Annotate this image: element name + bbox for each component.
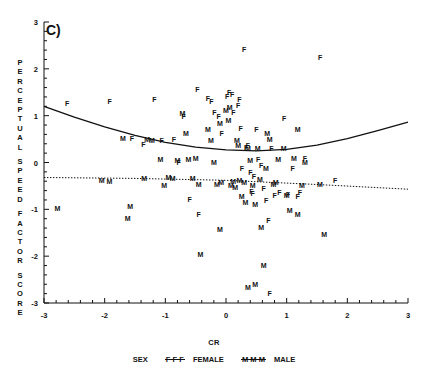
data-point-m: M (241, 179, 247, 186)
data-point-f: F (291, 165, 295, 172)
data-point-m: M (235, 141, 241, 148)
data-point-f: F (251, 190, 255, 197)
scatter-plot-figure: C) PERCEPTUALSPEEDFACTORSCORE FFFFFFFFFF… (0, 0, 428, 371)
legend-male-label: MALE (274, 355, 295, 364)
data-point-f: F (269, 145, 273, 152)
data-point-m: M (257, 175, 263, 182)
data-point-m: M (252, 281, 258, 288)
data-point-m: M (208, 137, 214, 144)
y-tick-label: -3 (22, 299, 38, 308)
data-point-f: F (195, 85, 199, 92)
y-tick-label: 3 (22, 18, 38, 27)
data-point-f: F (242, 46, 246, 53)
data-point-m: M (217, 119, 223, 126)
data-point-m: M (217, 226, 223, 233)
data-point-m: M (291, 154, 297, 161)
data-point-f: F (220, 130, 224, 137)
data-point-m: M (299, 181, 305, 188)
data-point-m: M (302, 158, 308, 165)
x-tick-label: 1 (277, 311, 297, 320)
data-point-m: M (252, 200, 258, 207)
data-point-m: M (183, 130, 189, 137)
data-point-m: M (227, 104, 233, 111)
y-tick-label: -1 (22, 205, 38, 214)
data-point-m: M (193, 154, 199, 161)
data-point-m: M (255, 145, 261, 152)
data-point-f: F (217, 112, 221, 119)
data-point-f: F (266, 216, 270, 223)
data-point-f: F (277, 188, 281, 195)
y-tick-label: 2 (22, 65, 38, 74)
data-point-m: M (267, 136, 273, 143)
data-point-m: M (218, 179, 224, 186)
x-axis-label: CR (0, 338, 428, 347)
data-point-f: F (261, 185, 265, 192)
y-tick-label: 1 (22, 112, 38, 121)
data-point-f: F (197, 211, 201, 218)
data-point-m: M (211, 158, 217, 165)
data-point-m: M (125, 214, 131, 221)
data-point-m: M (295, 125, 301, 132)
data-point-f: F (65, 99, 69, 106)
data-point-m: M (295, 211, 301, 218)
data-point-m: M (170, 174, 176, 181)
data-point-f: F (318, 54, 322, 61)
data-point-f: F (160, 136, 164, 143)
data-point-m: M (247, 157, 253, 164)
data-point-m: M (198, 250, 204, 257)
data-point-f: F (254, 125, 258, 132)
data-point-f: F (107, 97, 111, 104)
data-point-m: M (54, 205, 60, 212)
data-point-m: M (179, 110, 185, 117)
data-point-f: F (209, 97, 213, 104)
axes (44, 22, 408, 303)
data-point-m: M (242, 199, 248, 206)
data-point-m: M (250, 181, 256, 188)
data-point-f: F (172, 136, 176, 143)
data-point-m: M (99, 177, 105, 184)
data-point-m: M (190, 174, 196, 181)
data-point-m: M (317, 180, 323, 187)
x-tick-label: 3 (398, 311, 418, 320)
data-point-m: M (281, 145, 287, 152)
data-point-f: F (237, 95, 241, 102)
data-point-m: M (273, 179, 279, 186)
data-point-m: M (185, 155, 191, 162)
x-tick-label: -3 (34, 311, 54, 320)
data-point-m: M (120, 135, 126, 142)
data-point-m: M (149, 137, 155, 144)
legend-title: SEX (133, 355, 148, 364)
data-point-f: F (236, 102, 240, 109)
data-point-f: F (333, 177, 337, 184)
data-point-f: F (187, 196, 191, 203)
data-point-f: F (252, 172, 256, 179)
data-point-f: F (130, 135, 134, 142)
data-point-m: M (245, 144, 251, 151)
data-point-m: M (321, 230, 327, 237)
x-tick-label: 2 (337, 311, 357, 320)
data-point-m: M (127, 202, 133, 209)
data-point-m: M (263, 165, 269, 172)
data-point-f: F (282, 115, 286, 122)
data-point-m: M (196, 180, 202, 187)
data-point-m: M (284, 192, 290, 199)
data-point-f: F (152, 96, 156, 103)
x-tick-label: -1 (155, 311, 175, 320)
data-point-m: M (107, 178, 113, 185)
data-point-m: M (141, 174, 147, 181)
data-point-m: M (175, 156, 181, 163)
legend-female-marker: F F F (166, 355, 184, 364)
x-tick-label: -2 (95, 311, 115, 320)
data-point-f: F (268, 289, 272, 296)
data-point-m: M (232, 183, 238, 190)
data-point-m: M (287, 207, 293, 214)
data-point-f: F (240, 165, 244, 172)
data-point-f: F (298, 188, 302, 195)
legend-female-label: FEMALE (193, 355, 224, 364)
data-point-m: M (245, 283, 251, 290)
y-tick-label: 0 (22, 159, 38, 168)
data-point-f: F (238, 125, 242, 132)
chart-legend: SEX F F F FEMALE M M M MALE (0, 354, 428, 364)
x-tick-label: 0 (216, 311, 236, 320)
data-point-f: F (272, 192, 276, 199)
